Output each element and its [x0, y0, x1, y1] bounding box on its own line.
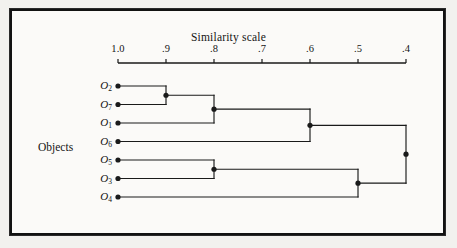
- dendrogram-links: [118, 86, 406, 197]
- leaf-node-o6: [115, 139, 120, 144]
- dendrogram-figure: Similarity scale Objects 1.0.9.8.7.6.5.4…: [0, 0, 457, 248]
- merge-node-m1: [163, 93, 168, 98]
- leaf-node-o1: [115, 120, 120, 125]
- leaf-node-o7: [115, 102, 120, 107]
- leaf-node-o3: [115, 176, 120, 181]
- axis-line-group: [118, 59, 406, 63]
- merge-node-m3: [211, 167, 216, 172]
- merge-node-m4: [307, 123, 312, 128]
- merge-node-m6: [403, 152, 408, 157]
- leaf-node-o2: [115, 83, 120, 88]
- merge-node-m2: [211, 107, 216, 112]
- merge-node-m5: [355, 181, 360, 186]
- dendrogram-plot: [0, 0, 457, 248]
- leaf-node-o5: [115, 157, 120, 162]
- leaf-node-o4: [115, 194, 120, 199]
